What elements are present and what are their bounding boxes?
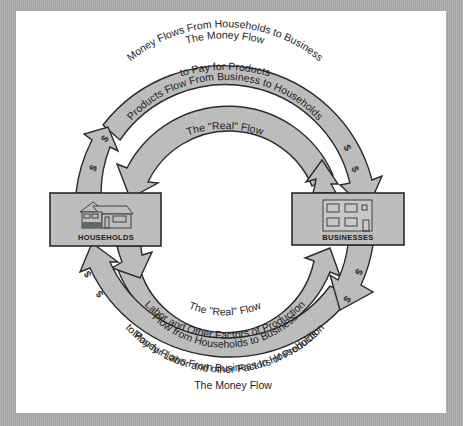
- businesses-node: BUSINESSES: [292, 193, 404, 245]
- top-money-flow-arrow: [76, 66, 382, 210]
- bottom-money-flow-title: The Money Flow: [194, 379, 272, 391]
- house-icon: [80, 202, 133, 228]
- office-building-icon: [323, 200, 372, 231]
- businesses-label: BUSINESSES: [322, 233, 373, 242]
- bottom-real-flow-title: The "Real" Flow: [188, 299, 263, 318]
- households-node: HOUSEHOLDS: [50, 193, 161, 246]
- circular-flow-diagram: HOUSEHOLDS BUSINESSES The Money Flow Mon…: [0, 0, 463, 426]
- households-label: HOUSEHOLDS: [78, 233, 134, 242]
